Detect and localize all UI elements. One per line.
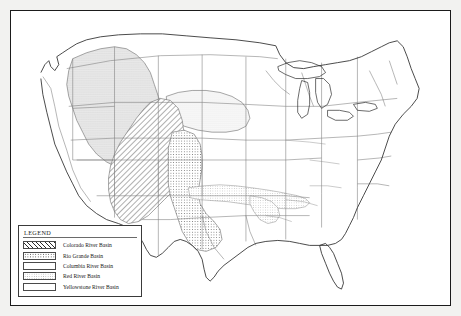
legend-item-columbia: Columbia River Basin [23, 261, 137, 271]
legend-swatch-colorado [23, 241, 56, 249]
basin-fills [67, 47, 310, 252]
great-lakes [278, 61, 378, 121]
legend-swatch-columbia [23, 262, 56, 270]
legend-item-colorado: Colorado River Basin [23, 240, 137, 250]
region-red-river-basin [188, 185, 309, 209]
legend-label-columbia: Columbia River Basin [63, 263, 113, 269]
map-legend: LEGEND Colorado River Basin Rio Grande B… [18, 225, 142, 297]
legend-swatch-rio-grande [23, 252, 56, 260]
legend-label-red-river: Red River Basin [63, 273, 100, 279]
legend-item-rio-grande: Rio Grande Basin [23, 250, 137, 260]
page-root: LEGEND Colorado River Basin Rio Grande B… [0, 0, 461, 316]
legend-swatch-red-river [23, 272, 56, 280]
legend-item-yellowstone: Yellowstone River Basin [23, 282, 137, 292]
legend-label-colorado: Colorado River Basin [63, 242, 112, 248]
legend-title: LEGEND [23, 229, 137, 239]
legend-label-yellowstone: Yellowstone River Basin [63, 284, 119, 290]
legend-swatch-yellowstone [23, 283, 56, 291]
legend-item-red-river: Red River Basin [23, 271, 137, 281]
legend-label-rio-grande: Rio Grande Basin [63, 253, 103, 259]
map-frame: LEGEND Colorado River Basin Rio Grande B… [10, 10, 451, 306]
